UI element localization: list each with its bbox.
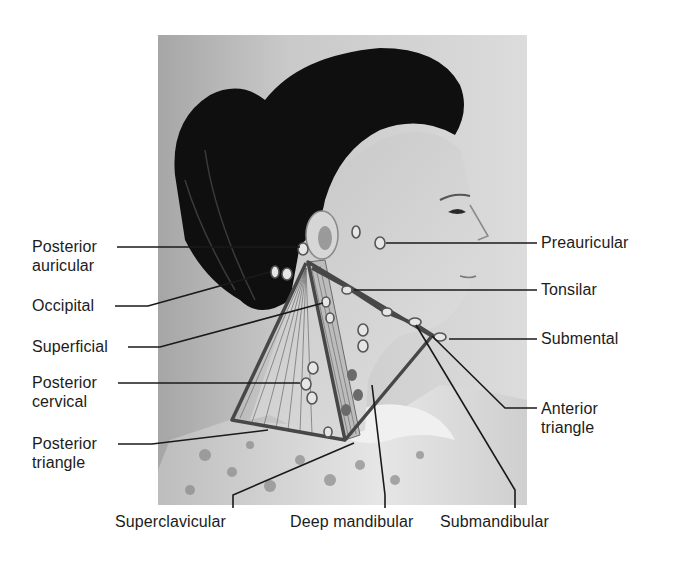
label-submental: Submental xyxy=(541,329,618,348)
label-deep-mandibular: Deep mandibular xyxy=(290,512,413,531)
label-line: Deep mandibular xyxy=(290,512,413,531)
label-posterior-cervical: Posterior cervical xyxy=(32,373,97,411)
label-line: Submandibular xyxy=(440,512,549,531)
label-line: Superclavicular xyxy=(115,512,226,531)
label-posterior-auricular: Posterior auricular xyxy=(32,237,97,275)
label-line: Tonsilar xyxy=(541,280,597,299)
node-jaw-1 xyxy=(382,308,392,316)
node-submandibular xyxy=(409,318,421,326)
node-posterior-auricular xyxy=(298,243,308,255)
label-line: Preauricular xyxy=(541,233,628,252)
label-anterior-triangle: Anterior triangle xyxy=(541,399,598,437)
lymph-node-diagram: Posterior auricular Occipital Superficia… xyxy=(0,0,681,567)
node-superclavicular xyxy=(324,427,332,437)
label-line: Submental xyxy=(541,329,618,348)
node-deep-2 xyxy=(358,340,368,352)
label-line: triangle xyxy=(541,418,598,437)
label-tonsilar: Tonsilar xyxy=(541,280,597,299)
node-occipital-1 xyxy=(271,266,279,278)
label-superficial: Superficial xyxy=(32,337,108,356)
node-occipital-2 xyxy=(282,268,292,280)
node-deep-1 xyxy=(358,324,368,336)
label-posterior-triangle: Posterior triangle xyxy=(32,434,97,472)
node-posterior-cervical-2 xyxy=(301,378,311,390)
node-preauricular xyxy=(375,237,385,249)
label-line: triangle xyxy=(32,453,97,472)
label-preauricular: Preauricular xyxy=(541,233,628,252)
node-posterior-cervical-3 xyxy=(307,392,317,404)
label-line: Occipital xyxy=(32,296,94,315)
label-superclavicular: Superclavicular xyxy=(115,512,226,531)
node-preauricular-upper xyxy=(352,226,360,238)
node-posterior-cervical-1 xyxy=(308,362,318,374)
label-line: cervical xyxy=(32,392,97,411)
label-line: Superficial xyxy=(32,337,108,356)
label-line: Posterior xyxy=(32,373,97,392)
label-occipital: Occipital xyxy=(32,296,94,315)
node-superficial xyxy=(322,297,330,307)
label-line: Posterior xyxy=(32,434,97,453)
node-tonsilar xyxy=(342,286,352,294)
label-submandibular: Submandibular xyxy=(440,512,549,531)
label-line: auricular xyxy=(32,256,97,275)
label-line: Anterior xyxy=(541,399,598,418)
node-superficial-2 xyxy=(326,313,334,323)
label-line: Posterior xyxy=(32,237,97,256)
